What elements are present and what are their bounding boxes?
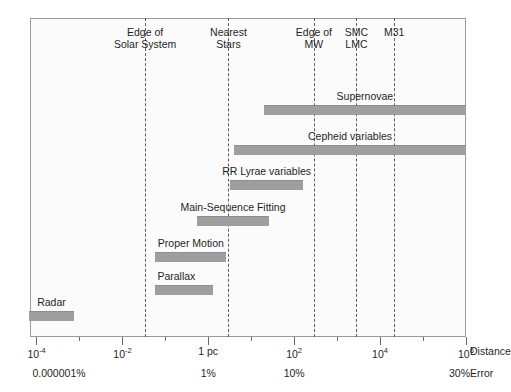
range-bar — [230, 180, 303, 190]
range-bar — [155, 285, 212, 295]
distance-tick-label-3: 102 — [286, 345, 302, 360]
axis-tick-minor — [423, 337, 424, 341]
axis-tick-minor — [251, 337, 252, 341]
distance-tick-label-0: 10-4 — [27, 345, 45, 360]
distance-tick-label-2: 1 pc — [198, 345, 218, 357]
axis-tick-major — [294, 337, 295, 345]
marker-line-3 — [356, 18, 357, 337]
range-bar — [197, 216, 269, 226]
error-tick-label-1: 1% — [201, 367, 216, 379]
range-bar — [29, 311, 74, 321]
distance-tick-label-1: 10-2 — [113, 345, 131, 360]
range-bar-label: Main-Sequence Fitting — [180, 201, 285, 213]
axis-tick-major — [466, 337, 467, 345]
range-bar-label: Radar — [37, 296, 66, 308]
error-tick-label-3: 30% — [449, 367, 470, 379]
marker-label-1: Nearest Stars — [182, 26, 274, 50]
axis-tick-major — [208, 337, 209, 345]
axis-tick-major — [36, 337, 37, 345]
error-tick-label-0: 0.000001% — [32, 367, 85, 379]
marker-label-0: Edge of Solar System — [99, 26, 191, 50]
axis-tick-minor — [79, 337, 80, 341]
range-bar — [264, 105, 466, 115]
range-bar — [234, 145, 466, 155]
distance-axis-title: Distance — [470, 345, 511, 357]
error-tick-label-2: 10% — [284, 367, 305, 379]
range-bar-label: Supernovae — [337, 90, 394, 102]
marker-line-1 — [228, 18, 229, 337]
axis-tick-minor — [165, 337, 166, 341]
range-bar-label: Proper Motion — [158, 237, 224, 249]
marker-line-0 — [145, 18, 146, 337]
marker-line-4 — [394, 18, 395, 337]
distance-tick-label-4: 104 — [372, 345, 388, 360]
plot-frame — [30, 18, 466, 337]
range-bar-label: Cepheid variables — [308, 130, 392, 142]
range-bar-label: Parallax — [157, 270, 195, 282]
axis-tick-major — [380, 337, 381, 345]
error-axis-title: Error — [470, 367, 493, 379]
axis-tick-minor — [337, 337, 338, 341]
marker-line-2 — [314, 18, 315, 337]
range-bar — [155, 252, 226, 262]
marker-label-4: M31 — [348, 26, 440, 38]
range-bar-label: RR Lyrae variables — [222, 165, 311, 177]
axis-tick-major — [122, 337, 123, 345]
